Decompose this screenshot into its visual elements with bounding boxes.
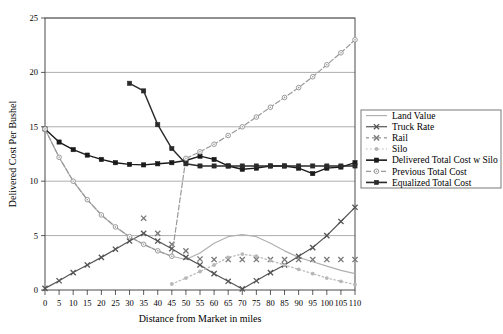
marker-core-legend-previous-total-cost-0 (376, 170, 378, 172)
marker-core-previous-total-cost-22 (354, 39, 356, 41)
marker-core-previous-total-cost-2 (72, 180, 74, 182)
y-tick-label-10: 10 (30, 176, 39, 186)
marker-equalized-total-cost-3 (170, 146, 174, 150)
marker-core-previous-total-cost-5 (115, 226, 117, 228)
x-tick-label-95: 95 (308, 298, 317, 308)
marker-core-previous-total-cost-19 (312, 76, 314, 78)
marker-core-previous-total-cost-7 (143, 244, 145, 246)
marker-core-previous-total-cost-18 (298, 87, 300, 89)
legend-label-land-value: Land Value (392, 111, 435, 121)
marker-delivered-total-cost-w-silo-7 (142, 163, 146, 167)
x-axis-title: Distance from Market in miles (139, 313, 262, 324)
y-tick-label-5: 5 (34, 231, 38, 241)
legend-label-rail: Rail (392, 133, 408, 143)
x-tick-label-45: 45 (168, 298, 177, 308)
marker-core-previous-total-cost-6 (129, 236, 131, 238)
marker-equalized-total-cost-8 (240, 164, 244, 168)
legend-label-equalized-total-cost: Equalized Total Cost (392, 178, 472, 188)
x-tick-label-10: 10 (69, 298, 78, 308)
marker-equalized-total-cost-12 (297, 164, 301, 168)
marker-equalized-total-cost-2 (156, 123, 160, 127)
x-tick-label-85: 85 (280, 298, 289, 308)
cost-distance-line-chart: 0510152025051015202530354045505560657075… (0, 0, 503, 334)
marker-silo-5 (240, 252, 244, 256)
marker-core-previous-total-cost-13 (227, 135, 229, 137)
marker-delivered-total-cost-w-silo-5 (113, 161, 117, 165)
marker-delivered-total-cost-w-silo-2 (71, 148, 75, 152)
marker-equalized-total-cost-6 (212, 164, 216, 168)
marker-core-previous-total-cost-12 (213, 143, 215, 145)
y-tick-label-20: 20 (30, 67, 39, 77)
marker-equalized-total-cost-5 (198, 164, 202, 168)
marker-core-previous-total-cost-16 (270, 106, 272, 108)
marker-silo-11 (325, 276, 329, 280)
marker-core-previous-total-cost-0 (44, 128, 46, 130)
marker-core-previous-total-cost-17 (284, 97, 286, 99)
x-tick-label-100: 100 (320, 298, 333, 308)
marker-silo-0 (170, 282, 174, 286)
marker-core-previous-total-cost-9 (171, 255, 173, 257)
marker-legend-delivered-total-cost-w-silo-0 (374, 158, 378, 162)
marker-equalized-total-cost-15 (339, 164, 343, 168)
marker-delivered-total-cost-w-silo-4 (99, 157, 103, 161)
legend-label-delivered-total-cost-w-silo: Delivered Total Cost w Silo (392, 155, 498, 165)
marker-silo-10 (311, 272, 315, 276)
marker-core-previous-total-cost-10 (185, 158, 187, 160)
marker-core-previous-total-cost-3 (86, 199, 88, 201)
marker-silo-1 (184, 276, 188, 280)
marker-delivered-total-cost-w-silo-1 (57, 140, 61, 144)
legend-label-silo: Silo (392, 144, 408, 154)
x-tick-label-55: 55 (196, 298, 205, 308)
x-tick-label-50: 50 (182, 298, 191, 308)
marker-silo-13 (353, 283, 357, 287)
y-tick-label-0: 0 (34, 285, 38, 295)
marker-delivered-total-cost-w-silo-19 (311, 171, 315, 175)
legend-label-previous-total-cost: Previous Total Cost (392, 167, 467, 177)
x-tick-label-105: 105 (335, 298, 348, 308)
marker-silo-9 (297, 267, 301, 271)
y-tick-label-15: 15 (30, 122, 39, 132)
marker-core-previous-total-cost-14 (241, 126, 243, 128)
marker-silo-3 (212, 263, 216, 267)
marker-silo-4 (226, 255, 230, 259)
x-tick-label-25: 25 (111, 298, 120, 308)
x-tick-label-15: 15 (83, 298, 92, 308)
marker-delivered-total-cost-w-silo-8 (156, 162, 160, 166)
x-tick-label-110: 110 (349, 298, 361, 308)
marker-core-previous-total-cost-21 (340, 52, 342, 54)
marker-equalized-total-cost-13 (311, 164, 315, 168)
x-tick-label-65: 65 (224, 298, 233, 308)
marker-equalized-total-cost-11 (282, 164, 286, 168)
marker-silo-8 (283, 263, 287, 267)
marker-core-previous-total-cost-4 (101, 214, 103, 216)
x-tick-label-0: 0 (43, 298, 47, 308)
marker-delivered-total-cost-w-silo-11 (198, 154, 202, 158)
marker-legend-equalized-total-cost-0 (374, 180, 378, 184)
x-tick-label-40: 40 (153, 298, 162, 308)
marker-core-previous-total-cost-1 (58, 156, 60, 158)
x-tick-label-60: 60 (210, 298, 219, 308)
legend-label-truck-rate: Truck Rate (392, 122, 434, 132)
marker-silo-7 (269, 259, 273, 263)
marker-equalized-total-cost-14 (325, 164, 329, 168)
marker-core-previous-total-cost-20 (326, 64, 328, 66)
x-tick-label-20: 20 (97, 298, 106, 308)
chart-container: 0510152025051015202530354045505560657075… (0, 0, 503, 334)
marker-equalized-total-cost-4 (184, 162, 188, 166)
marker-equalized-total-cost-0 (127, 81, 131, 85)
legend: Land ValueTruck RateRailSiloDelivered To… (361, 110, 501, 188)
x-tick-label-35: 35 (139, 298, 148, 308)
marker-core-previous-total-cost-11 (199, 151, 201, 153)
marker-equalized-total-cost-16 (353, 164, 357, 168)
marker-silo-2 (198, 270, 202, 274)
x-tick-label-80: 80 (266, 298, 275, 308)
marker-equalized-total-cost-7 (226, 164, 230, 168)
marker-delivered-total-cost-w-silo-6 (127, 162, 131, 166)
marker-core-previous-total-cost-15 (256, 116, 258, 118)
y-axis-title: Delivered Cost Per Bushel (7, 101, 18, 208)
marker-equalized-total-cost-1 (142, 89, 146, 93)
x-tick-label-5: 5 (57, 298, 61, 308)
y-tick-label-25: 25 (30, 13, 39, 23)
x-tick-label-70: 70 (238, 298, 247, 308)
x-tick-label-90: 90 (294, 298, 303, 308)
